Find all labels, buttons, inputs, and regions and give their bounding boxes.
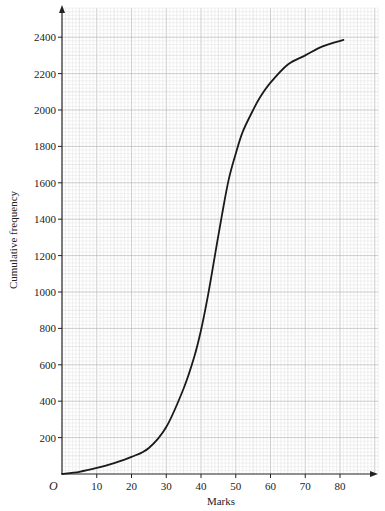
x-tick-label: 10: [91, 480, 103, 492]
y-axis-arrow-icon: [59, 5, 65, 13]
y-tick-label: 600: [40, 359, 57, 371]
y-axis-ticks: 2004006008001000120014001600180020002200…: [34, 31, 62, 443]
y-tick-label: 400: [40, 395, 57, 407]
x-axis-arrow-icon: [370, 471, 378, 477]
x-tick-label: 70: [300, 480, 312, 492]
y-tick-label: 200: [40, 432, 57, 444]
x-axis-title: Marks: [207, 495, 235, 507]
y-tick-label: 800: [40, 322, 57, 334]
origin-label: O: [49, 479, 58, 493]
x-tick-label: 60: [265, 480, 277, 492]
x-tick-label: 20: [126, 480, 138, 492]
x-tick-label: 80: [335, 480, 347, 492]
cumulative-frequency-curve: [62, 40, 343, 474]
x-tick-label: 50: [230, 480, 242, 492]
y-tick-label: 2200: [34, 68, 57, 80]
y-tick-label: 1800: [34, 140, 57, 152]
y-tick-label: 2400: [34, 31, 57, 43]
cumulative-frequency-chart: 1020304050607080 20040060080010001200140…: [0, 0, 385, 511]
y-tick-label: 1600: [34, 177, 57, 189]
graph-paper-grid: [62, 8, 378, 474]
x-axis-ticks: 1020304050607080: [91, 474, 346, 492]
y-tick-label: 1400: [34, 213, 57, 225]
y-axis-title: Cumulative frequency: [7, 190, 19, 289]
y-tick-label: 2000: [34, 104, 57, 116]
y-tick-label: 1000: [34, 286, 57, 298]
x-tick-label: 30: [161, 480, 173, 492]
x-tick-label: 40: [196, 480, 208, 492]
y-tick-label: 1200: [34, 250, 57, 262]
